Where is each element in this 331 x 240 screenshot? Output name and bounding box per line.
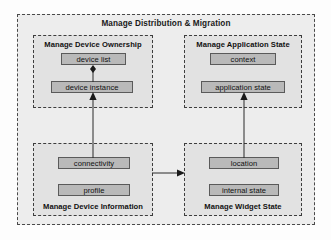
group-label-manage-application-state: Manage Application State bbox=[185, 40, 301, 49]
connector-device-information-to-device-instance bbox=[88, 92, 98, 158]
group-label-manage-widget-state: Manage Widget State bbox=[185, 202, 301, 211]
node-connectivity[interactable]: connectivity bbox=[58, 157, 130, 169]
diagram-canvas: Manage Distribution & Migration Manage D… bbox=[0, 0, 331, 240]
connector-device-information-to-widget-state bbox=[152, 168, 186, 178]
node-internal-state[interactable]: internal state bbox=[209, 184, 279, 196]
connector-widget-state-to-application-state bbox=[239, 92, 249, 158]
connector-device-instance-to-device-list bbox=[88, 64, 98, 82]
node-context[interactable]: context bbox=[210, 53, 276, 65]
node-location[interactable]: location bbox=[209, 157, 279, 169]
group-label-manage-device-information: Manage Device Information bbox=[34, 202, 152, 211]
node-profile[interactable]: profile bbox=[58, 184, 130, 196]
group-label-manage-device-ownership: Manage Device Ownership bbox=[34, 40, 152, 49]
diagram-title: Manage Distribution & Migration bbox=[18, 19, 314, 28]
